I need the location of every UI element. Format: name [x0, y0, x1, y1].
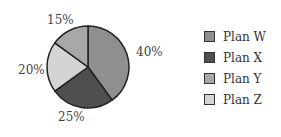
legend-item-plan-x: Plan X [204, 47, 266, 68]
legend-item-plan-y: Plan Y [204, 68, 266, 89]
legend-label: Plan Y [223, 72, 262, 86]
legend-swatch-plan-z [204, 94, 215, 105]
legend-label: Plan Z [223, 93, 262, 107]
legend-swatch-plan-x [204, 52, 215, 63]
slice-label-plan-y: 15% [47, 13, 74, 27]
legend-label: Plan W [223, 30, 266, 44]
slice-label-plan-z: 20% [18, 63, 45, 77]
slice-label-plan-w: 40% [136, 45, 163, 59]
pie-slices [47, 26, 129, 108]
legend-label: Plan X [223, 51, 262, 65]
legend-item-plan-z: Plan Z [204, 89, 266, 110]
legend: Plan W Plan X Plan Y Plan Z [204, 26, 266, 110]
legend-swatch-plan-w [204, 31, 215, 42]
slice-label-plan-x: 25% [58, 110, 85, 124]
legend-swatch-plan-y [204, 73, 215, 84]
legend-item-plan-w: Plan W [204, 26, 266, 47]
